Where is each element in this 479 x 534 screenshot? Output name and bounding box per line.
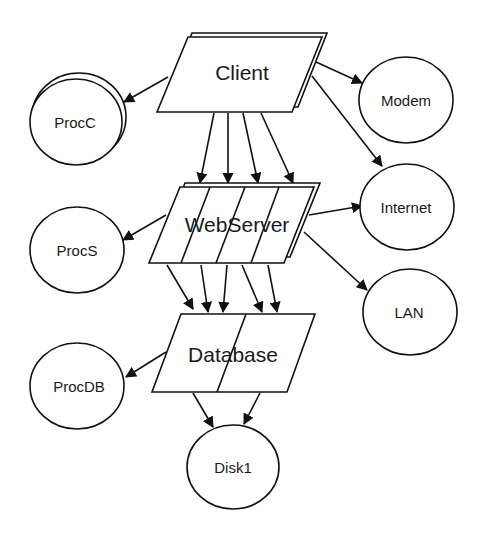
node-procs[interactable]: ProcS bbox=[30, 207, 124, 293]
node-lan[interactable]: LAN bbox=[363, 269, 457, 355]
edge-webserver-database-5 bbox=[268, 265, 277, 312]
node-internet[interactable]: Internet bbox=[360, 164, 454, 250]
client-label: Client bbox=[215, 61, 269, 84]
edge-client-modem bbox=[316, 62, 362, 83]
edge-database-disk1-2 bbox=[244, 393, 260, 424]
node-database[interactable]: Database bbox=[152, 314, 315, 392]
edge-webserver-database-1 bbox=[167, 265, 193, 309]
node-webserver[interactable]: WebServer bbox=[149, 183, 320, 263]
edge-client-webserver-3 bbox=[243, 113, 258, 183]
modem-label: Modem bbox=[381, 92, 431, 109]
node-procc[interactable]: ProcC bbox=[30, 73, 126, 165]
node-modem[interactable]: Modem bbox=[359, 57, 453, 143]
node-client[interactable]: Client bbox=[157, 33, 327, 112]
edge-webserver-internet bbox=[309, 206, 362, 215]
webserver-label: WebServer bbox=[185, 213, 290, 236]
edge-client-webserver-4 bbox=[261, 113, 293, 183]
node-procdb[interactable]: ProcDB bbox=[30, 343, 124, 429]
procc-label: ProcC bbox=[54, 114, 96, 131]
edge-client-procc bbox=[124, 77, 168, 102]
edge-webserver-database-4 bbox=[242, 265, 262, 312]
edge-webserver-database-3 bbox=[223, 265, 227, 312]
internet-label: Internet bbox=[381, 199, 433, 216]
edge-webserver-database-2 bbox=[201, 265, 208, 312]
edge-database-disk1-1 bbox=[193, 393, 213, 427]
lan-label: LAN bbox=[394, 304, 423, 321]
edge-webserver-lan bbox=[304, 232, 367, 290]
database-label: Database bbox=[188, 343, 278, 366]
procs-label: ProcS bbox=[57, 242, 98, 259]
disk1-label: Disk1 bbox=[214, 459, 252, 476]
node-disk1[interactable]: Disk1 bbox=[187, 425, 279, 509]
diagram-canvas: Client WebServer Database ProcC Modem In… bbox=[0, 0, 479, 534]
procdb-label: ProcDB bbox=[53, 378, 105, 395]
edge-client-webserver-1 bbox=[200, 113, 214, 183]
